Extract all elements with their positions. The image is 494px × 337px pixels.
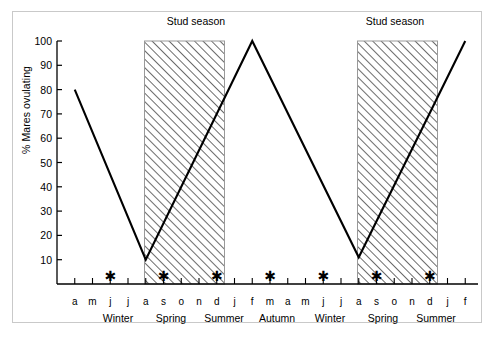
- month-label: j: [120, 297, 136, 307]
- month-label: j: [227, 297, 243, 307]
- season-label: Summer: [399, 313, 473, 324]
- y-tick-label: 100: [22, 36, 52, 46]
- month-label: d: [209, 297, 225, 307]
- asterisk-marker: ✱: [104, 268, 116, 284]
- y-tick-label: 90: [22, 60, 52, 70]
- asterisk-marker: ✱: [211, 268, 223, 284]
- y-tick-label: 60: [22, 133, 52, 143]
- stud-season-label-2: Stud season: [345, 15, 445, 27]
- y-tick-label: 20: [22, 230, 52, 240]
- month-label: m: [262, 297, 278, 307]
- y-tick-label: 40: [22, 182, 52, 192]
- asterisk-marker: ✱: [264, 268, 276, 284]
- month-label: j: [333, 297, 349, 307]
- month-label: f: [244, 297, 260, 307]
- y-tick-label: 80: [22, 85, 52, 95]
- y-tick-label: 30: [22, 206, 52, 216]
- stud-season-label-1: Stud season: [146, 15, 246, 27]
- month-label: a: [351, 297, 367, 307]
- month-label: s: [156, 297, 172, 307]
- month-label: j: [440, 297, 456, 307]
- month-label: j: [315, 297, 331, 307]
- y-tick-label: 70: [22, 109, 52, 119]
- asterisk-marker: ✱: [317, 268, 329, 284]
- month-label: o: [386, 297, 402, 307]
- month-label: j: [102, 297, 118, 307]
- month-label: m: [298, 297, 314, 307]
- month-label: n: [404, 297, 420, 307]
- asterisk-marker: ✱: [424, 268, 436, 284]
- month-label: n: [191, 297, 207, 307]
- y-tick-label: 50: [22, 158, 52, 168]
- stud-season-band-1: [145, 41, 225, 284]
- month-label: f: [457, 297, 473, 307]
- figure-container: ✱ ✱ ✱ ✱ ✱ ✱ ✱ % Mares ovulating 100 90 8…: [0, 0, 494, 337]
- y-tick-label: 10: [22, 255, 52, 265]
- y-axis: [57, 41, 62, 284]
- month-label: s: [369, 297, 385, 307]
- stud-season-band-2: [358, 41, 438, 284]
- month-label: o: [173, 297, 189, 307]
- asterisk-marker: ✱: [371, 268, 383, 284]
- line-chart-plot: ✱ ✱ ✱ ✱ ✱ ✱ ✱: [0, 0, 494, 337]
- month-label: d: [422, 297, 438, 307]
- month-label: a: [138, 297, 154, 307]
- month-label: m: [85, 297, 101, 307]
- asterisk-marker: ✱: [158, 268, 170, 284]
- month-label: a: [280, 297, 296, 307]
- month-label: a: [67, 297, 83, 307]
